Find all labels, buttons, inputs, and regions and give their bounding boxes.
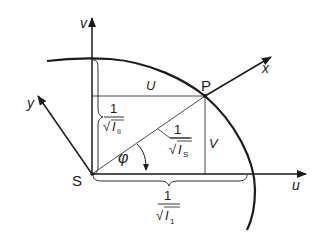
moment-subscript: II: [117, 128, 121, 135]
label-y-axis: y: [26, 95, 35, 111]
y-axis: [38, 96, 92, 174]
radius-line-s-p: [92, 96, 205, 174]
fraction-numerator: 1: [174, 122, 181, 137]
radical-sign: √: [103, 119, 111, 134]
radical-sign: √: [156, 208, 164, 223]
radical-sign: √: [169, 142, 177, 157]
brace-horizontal: [93, 175, 247, 186]
moment-subscript: 1: [170, 217, 175, 226]
fraction-numerator: 1: [164, 188, 171, 203]
fraction-inv-sqrt-I-S: 1 √ I S: [169, 122, 192, 159]
fraction-inv-sqrt-I-1: 1 √ I 1: [156, 188, 180, 226]
label-origin-s: S: [72, 172, 82, 189]
inertia-ellipse-diagram: v u x y S P U V φ 1 √ I II 1 √ I S 1 √ I…: [0, 0, 313, 250]
angle-phi-arc: [137, 144, 146, 170]
label-segment-u: U: [146, 78, 156, 93]
label-angle-phi: φ: [118, 149, 128, 166]
moment-symbol: I: [178, 142, 182, 157]
moment-subscript: S: [183, 150, 188, 159]
moment-symbol: I: [165, 208, 169, 223]
moment-symbol: I: [112, 119, 116, 134]
label-u-axis: u: [292, 177, 300, 193]
label-point-p: P: [201, 77, 211, 94]
label-v-axis: v: [80, 15, 88, 31]
fraction-numerator: 1: [110, 101, 117, 116]
label-x-axis: x: [261, 60, 270, 76]
brace-vertical: [93, 60, 103, 174]
point-p-dot: [203, 94, 207, 98]
fraction-inv-sqrt-I-II: 1 √ I II: [103, 101, 124, 135]
label-segment-v: V: [209, 136, 219, 151]
